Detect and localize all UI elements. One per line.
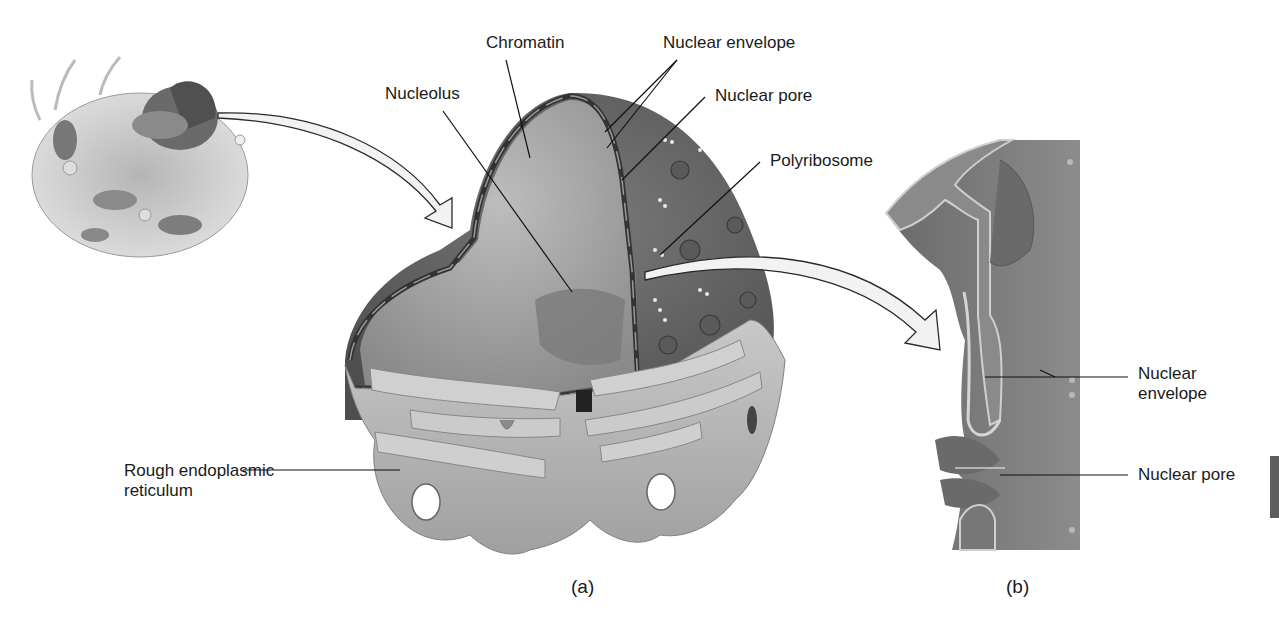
label-polyribosome: Polyribosome [770, 151, 873, 171]
label-rough-er-line1: Rough endoplasmic [124, 461, 274, 481]
label-rough-er-line2: reticulum [124, 481, 274, 501]
caption-a: (a) [571, 576, 594, 598]
label-nuclear-envelope-b: Nuclear envelope [1138, 364, 1207, 404]
label-nuclear-envelope-b-line2: envelope [1138, 384, 1207, 404]
label-chromatin: Chromatin [486, 33, 564, 53]
caption-b: (b) [1006, 576, 1029, 598]
label-nuclear-envelope-a: Nuclear envelope [663, 33, 795, 53]
label-nuclear-pore-a: Nuclear pore [715, 86, 812, 106]
label-nuclear-pore-b: Nuclear pore [1138, 465, 1235, 485]
label-rough-er: Rough endoplasmic reticulum [124, 461, 274, 501]
cell-thumbnail [32, 57, 248, 257]
zoom-arrow-a [218, 113, 452, 228]
nucleus-diagram [0, 0, 1279, 626]
label-nucleolus: Nucleolus [385, 84, 460, 104]
label-nuclear-envelope-b-line1: Nuclear [1138, 364, 1207, 384]
page-edge-tab [1270, 456, 1279, 518]
